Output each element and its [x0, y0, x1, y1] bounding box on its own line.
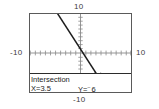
y-max-label: 10	[74, 2, 84, 11]
readout-x-prefix: X=	[31, 84, 40, 93]
plot-area[interactable]: Intersection X=3.5 Y=⁻6	[29, 13, 132, 93]
y-min-label: -10	[73, 95, 85, 104]
readout-title: Intersection	[31, 76, 70, 84]
calculator-screen: 10 -10 10 -10	[0, 0, 159, 109]
readout-x-number: 3.5	[40, 84, 50, 93]
x-min-label: -10	[10, 48, 22, 57]
intersection-readout-bar: Intersection X=3.5 Y=⁻6	[30, 73, 131, 92]
readout-y-prefix: Y=	[78, 85, 87, 93]
readout-y-number: 6	[91, 85, 95, 93]
readout-x-value: X=3.5	[31, 85, 51, 93]
x-max-label: 10	[136, 48, 146, 57]
readout-y-value: Y=⁻6	[78, 85, 96, 94]
